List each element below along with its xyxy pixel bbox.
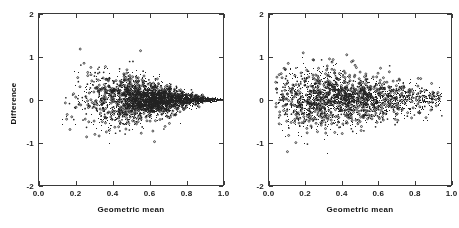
x-tick-bottom [39, 181, 40, 185]
y-tick-label: -2 [244, 181, 264, 190]
bland-altman-figure: 0.00.20.40.60.81.0210-1-2 Geometric mean… [0, 0, 459, 228]
x-tick-label: 0.0 [263, 189, 275, 198]
x-tick-top [378, 14, 379, 18]
x-tick-bottom [113, 181, 114, 185]
x-tick-top [187, 14, 188, 18]
left-plot-frame [38, 13, 224, 186]
x-tick-bottom [224, 181, 225, 185]
y-tick-left [269, 100, 273, 101]
x-tick-label: 0.4 [107, 189, 119, 198]
x-tick-bottom [305, 181, 306, 185]
x-tick-top [305, 14, 306, 18]
y-tick-label: -1 [244, 138, 264, 147]
y-tick-right [447, 57, 451, 58]
y-tick-left [39, 143, 43, 144]
y-tick-label: 1 [14, 52, 34, 61]
x-tick-top [76, 14, 77, 18]
y-tick-left [39, 57, 43, 58]
x-tick-bottom [76, 181, 77, 185]
y-tick-label: 2 [14, 9, 34, 18]
x-tick-label: 0.8 [409, 189, 421, 198]
y-tick-right [447, 186, 451, 187]
x-tick-top [113, 14, 114, 18]
left-x-axis-title: Geometric mean [98, 205, 165, 214]
x-tick-top [452, 14, 453, 18]
y-tick-left [39, 186, 43, 187]
right-scatter-points [269, 14, 451, 185]
y-tick-right [447, 14, 451, 15]
y-tick-left [269, 186, 273, 187]
x-tick-label: 0.8 [181, 189, 193, 198]
y-tick-left [269, 57, 273, 58]
y-tick-label: 2 [244, 9, 264, 18]
x-tick-label: 0.2 [70, 189, 82, 198]
y-tick-right [219, 14, 223, 15]
x-tick-top [269, 14, 270, 18]
x-tick-top [224, 14, 225, 18]
left-y-axis-title: Difference [9, 69, 18, 139]
y-tick-left [269, 14, 273, 15]
left-scatter-points [39, 14, 223, 185]
y-tick-label: -2 [14, 181, 34, 190]
x-tick-label: 0.6 [144, 189, 156, 198]
x-tick-bottom [415, 181, 416, 185]
y-tick-label: -1 [14, 138, 34, 147]
left-scatter-panel: 0.00.20.40.60.81.0210-1-2 Geometric mean… [0, 0, 229, 228]
x-tick-label: 0.2 [299, 189, 311, 198]
x-tick-bottom [342, 181, 343, 185]
y-tick-right [219, 57, 223, 58]
y-tick-right [219, 186, 223, 187]
x-tick-label: 0.0 [33, 189, 45, 198]
x-tick-bottom [150, 181, 151, 185]
x-tick-label: 0.6 [372, 189, 384, 198]
x-tick-top [415, 14, 416, 18]
x-tick-label: 1.0 [446, 189, 458, 198]
y-tick-right [447, 143, 451, 144]
x-tick-top [39, 14, 40, 18]
x-tick-label: 1.0 [218, 189, 230, 198]
x-tick-top [342, 14, 343, 18]
y-tick-left [39, 14, 43, 15]
x-tick-label: 0.4 [336, 189, 348, 198]
y-tick-label: 1 [244, 52, 264, 61]
y-tick-right [447, 100, 451, 101]
x-tick-bottom [378, 181, 379, 185]
x-tick-top [150, 14, 151, 18]
x-tick-bottom [187, 181, 188, 185]
y-tick-label: 0 [244, 95, 264, 104]
right-scatter-panel: 0.00.20.40.60.81.0210-1-2 Geometric mean [229, 0, 458, 228]
right-plot-frame [268, 13, 452, 186]
right-x-axis-title: Geometric mean [327, 205, 394, 214]
y-tick-right [219, 143, 223, 144]
y-tick-left [39, 100, 43, 101]
x-tick-bottom [452, 181, 453, 185]
y-tick-left [269, 143, 273, 144]
y-tick-right [219, 100, 223, 101]
x-tick-bottom [269, 181, 270, 185]
